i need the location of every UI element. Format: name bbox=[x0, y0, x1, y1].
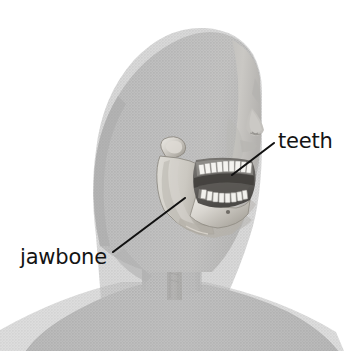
mental-foramen bbox=[226, 210, 230, 214]
anatomy-illustration: teeth jawbone bbox=[0, 0, 360, 351]
label-jawbone: jawbone bbox=[19, 245, 107, 269]
label-teeth: teeth bbox=[278, 129, 333, 153]
anatomy-figure: teeth jawbone bbox=[0, 0, 360, 351]
